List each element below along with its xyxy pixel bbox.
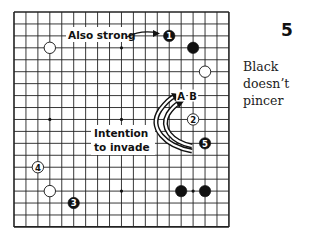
marker-label-a: A [177,91,185,102]
star-point [120,46,123,49]
stone-disc [175,185,186,196]
black-stone [199,185,210,196]
stone-disc [44,42,55,53]
stone-number: 4 [35,163,41,173]
stone-disc [199,185,210,196]
marker-label-b: B [189,91,197,102]
white-stone [44,42,55,53]
also-strong-label: Also strong [68,29,136,41]
star-point [48,118,51,121]
stone-number: 2 [190,115,196,125]
stone-number: 1 [166,31,172,41]
intention-label-line1: Intention [94,127,148,139]
stone-number: 3 [71,198,77,208]
white-stone [199,66,210,77]
black-stone [175,185,186,196]
black-stone-1: 1 [164,30,175,41]
white-stone-2: 2 [187,114,198,125]
white-stone-4: 4 [32,162,43,173]
black-stone [187,42,198,53]
stone-disc [187,42,198,53]
black-stone-5: 5 [199,138,210,149]
diagram-caption: Black doesn’t pincer [243,58,327,109]
black-stone-3: 3 [68,197,79,208]
intention-label-line2: to invade [94,141,150,153]
stone-disc [44,185,55,196]
stone-disc [199,66,210,77]
stone-number: 5 [202,139,208,149]
diagram-number: 5 [247,20,327,40]
go-board: Also strong Intention to invade AB 12543 [0,0,240,244]
star-point [120,190,123,193]
star-point [192,190,195,193]
white-stone [44,185,55,196]
star-point [120,118,123,121]
